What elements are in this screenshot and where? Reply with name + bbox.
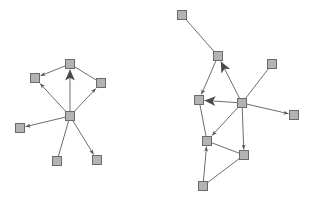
edge-R3-R5 [242,64,272,103]
node-R7 [203,137,212,146]
edge-R2-R4 [201,56,218,95]
node-R5 [238,99,247,108]
right-graph-nodes [178,11,299,191]
node-L4 [66,112,75,121]
edge-R5-R6 [242,103,289,114]
edge-L4-L7 [70,116,94,155]
edge-L4-L5 [26,116,71,127]
node-L1 [66,60,75,69]
graph-diagram [0,0,314,200]
edge-R9-R8 [203,155,244,186]
edge-R5-R2 [221,62,242,104]
node-R1 [178,11,187,20]
left-graph [16,60,106,166]
node-R9 [199,182,208,191]
edge-R7-R8 [207,141,244,155]
node-R8 [240,151,249,160]
node-R6 [290,111,299,120]
edge-R4-R7 [199,100,207,141]
node-R3 [268,60,277,69]
edge-R5-R8 [242,103,244,150]
edge-R9-R7 [203,147,207,187]
node-R2 [214,52,223,61]
node-L7 [93,156,102,165]
node-R4 [195,96,204,105]
node-L2 [31,74,40,83]
edge-L6-L4 [57,116,70,161]
node-L5 [16,124,25,133]
edge-R5-R4 [205,100,243,103]
node-L3 [97,79,106,88]
node-L6 [53,157,62,166]
right-graph [178,11,299,191]
edge-R1-R2 [182,15,218,56]
